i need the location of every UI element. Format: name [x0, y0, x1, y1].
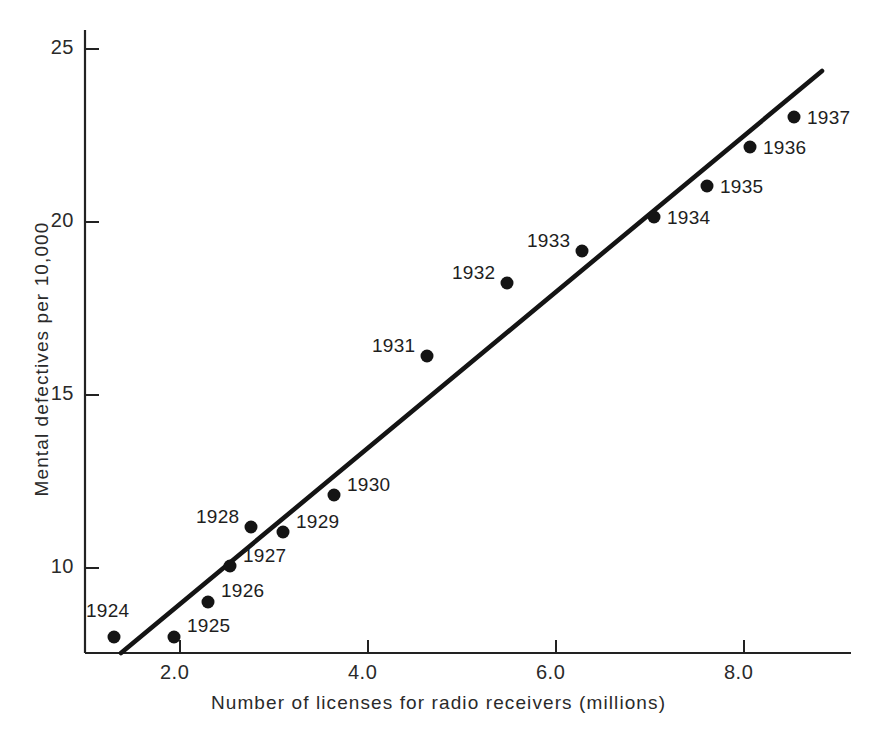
- point-label-1930: 1930: [347, 474, 390, 496]
- x-axis-title: Number of licenses for radio receivers (…: [0, 692, 877, 714]
- x-tick-label-2: 2.0: [160, 661, 189, 684]
- data-point: [421, 350, 434, 363]
- data-point: [788, 111, 801, 124]
- x-tick-label-6: 6.0: [536, 661, 565, 684]
- point-label-1927: 1927: [243, 545, 286, 567]
- data-point: [648, 211, 661, 224]
- data-point: [744, 141, 757, 154]
- point-label-1925: 1925: [187, 615, 230, 637]
- data-point: [245, 521, 258, 534]
- point-label-1932: 1932: [452, 262, 495, 284]
- data-point: [328, 489, 341, 502]
- point-label-1926: 1926: [221, 580, 264, 602]
- data-point: [701, 180, 714, 193]
- x-tick-label-8: 8.0: [724, 661, 753, 684]
- data-point: [108, 631, 121, 644]
- point-label-1929: 1929: [296, 511, 339, 533]
- point-label-1933: 1933: [527, 230, 570, 252]
- point-label-1931: 1931: [372, 335, 415, 357]
- point-label-1935: 1935: [720, 176, 763, 198]
- point-label-1924: 1924: [86, 600, 129, 622]
- plot-canvas: [0, 0, 877, 740]
- point-label-1928: 1928: [196, 506, 239, 528]
- data-point: [501, 277, 514, 290]
- point-label-1937: 1937: [807, 107, 850, 129]
- data-point: [277, 526, 290, 539]
- data-point: [168, 631, 181, 644]
- x-tick-label-4: 4.0: [348, 661, 377, 684]
- point-label-1934: 1934: [667, 207, 710, 229]
- data-point: [576, 245, 589, 258]
- scatter-plot-figure: 25 20 15 10 2.0 4.0 6.0 8.0 1924 1925 19…: [0, 0, 877, 740]
- data-point: [224, 560, 237, 573]
- point-label-1936: 1936: [763, 137, 806, 159]
- y-axis-title: Mental defectives per 10,000: [31, 149, 53, 569]
- y-tick-label-25: 25: [34, 36, 74, 59]
- data-point: [202, 596, 215, 609]
